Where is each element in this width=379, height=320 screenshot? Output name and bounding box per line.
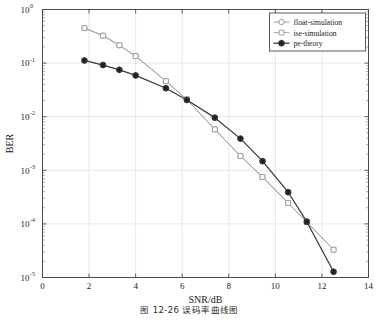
y-tick-label-3: 10-3 [21,164,36,176]
data-point-ise-simulation-11 [331,247,336,252]
figure-container: 10010-110-210-310-410-502468101214SNR/dB… [0,0,379,320]
data-point-pe-theory-6 [212,115,218,121]
x-tick-label-6: 12 [317,281,326,291]
legend-label-pe-theory: pe-theory [294,39,323,48]
figure-caption: 图 12-26 误码率曲线图 [0,303,379,315]
data-point-legend-2 [279,40,285,46]
data-point-ise-simulation-6 [212,127,217,132]
data-point-pe-theory-0 [82,58,88,64]
data-point-pe-theory-3 [133,72,139,78]
svg-text:10: 10 [21,5,31,15]
y-tick-label-0: 100 [21,3,34,15]
y-axis-title: BER [4,133,15,153]
data-point-pe-theory-2 [116,67,122,73]
svg-text:-3: -3 [30,164,35,170]
svg-text:-1: -1 [30,57,35,63]
data-point-ise-simulation-9 [286,201,291,206]
data-point-pe-theory-5 [184,97,190,103]
data-point-legend-1 [279,30,284,35]
x-tick-label-4: 8 [227,281,232,291]
data-point-ise-simulation-3 [133,54,138,59]
y-tick-label-2: 10-2 [21,110,36,122]
data-point-pe-theory-1 [100,62,106,68]
y-tick-label-1: 10-1 [21,57,36,69]
data-point-legend-0 [279,19,284,24]
x-tick-label-0: 0 [40,281,45,291]
x-tick-label-2: 4 [133,281,138,291]
svg-text:10: 10 [21,112,31,122]
x-tick-label-5: 10 [271,281,281,291]
data-point-pe-theory-11 [331,269,337,275]
data-point-pe-theory-4 [163,85,169,91]
data-point-pe-theory-7 [238,136,244,142]
data-point-ise-simulation-1 [101,33,106,38]
svg-text:-2: -2 [30,110,35,116]
svg-text:-4: -4 [30,217,35,223]
y-tick-label-4: 10-4 [21,217,36,229]
svg-text:10: 10 [21,58,31,68]
x-tick-label-3: 6 [180,281,185,291]
data-point-ise-simulation-8 [260,175,265,180]
svg-text:0: 0 [30,3,33,9]
legend-label-float-simulation: float-simulation [294,18,343,27]
data-point-pe-theory-10 [304,219,310,225]
data-point-ise-simulation-2 [117,43,122,48]
data-point-ise-simulation-7 [238,154,243,159]
x-tick-label-1: 2 [87,281,92,291]
svg-text:-5: -5 [30,271,35,277]
data-point-pe-theory-8 [260,158,266,164]
ber-snr-chart: 10010-110-210-310-410-502468101214SNR/dB… [0,0,379,320]
x-tick-label-7: 14 [364,281,374,291]
legend-label-ise-simulation: ise-simulation [294,29,337,38]
svg-text:10: 10 [21,166,31,176]
data-point-ise-simulation-0 [82,26,87,31]
data-point-pe-theory-9 [285,189,291,195]
svg-text:10: 10 [21,273,31,283]
data-point-ise-simulation-4 [164,79,169,84]
svg-text:10: 10 [21,219,31,229]
y-tick-label-5: 10-5 [21,271,36,283]
